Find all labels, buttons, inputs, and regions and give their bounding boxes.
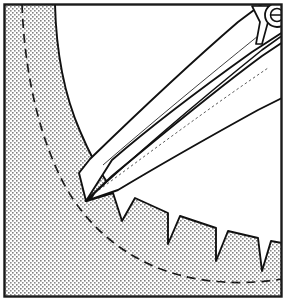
technical-illustration	[0, 0, 286, 301]
figure-container	[0, 0, 286, 301]
